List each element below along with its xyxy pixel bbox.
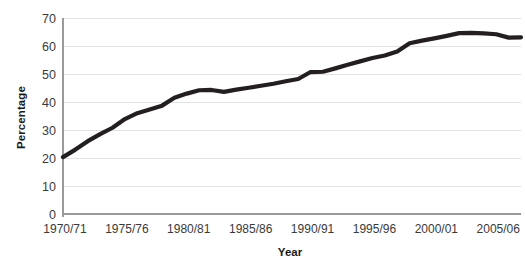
- x-tick-label: 1975/76: [105, 222, 149, 236]
- x-tick-label: 1985/86: [229, 222, 273, 236]
- y-tick-label: 40: [42, 96, 56, 110]
- series-line: [63, 33, 521, 157]
- y-tick-label: 10: [42, 180, 56, 194]
- y-tick-label: 70: [42, 12, 56, 26]
- y-tick-label: 20: [42, 152, 56, 166]
- y-tick-label: 60: [42, 40, 56, 54]
- x-tick-label: 2005/06: [477, 222, 521, 236]
- x-tick-label: 1990/91: [291, 222, 335, 236]
- y-tick-label: 50: [42, 68, 56, 82]
- x-tick-label: 2000/01: [415, 222, 459, 236]
- y-tick-labels: 706050403020100: [42, 12, 56, 222]
- y-tick-label: 0: [49, 208, 56, 222]
- x-tick-labels: 1970/711975/761980/811985/861990/911995/…: [43, 222, 520, 236]
- x-tick-label: 1980/81: [167, 222, 211, 236]
- x-tick-label: 1970/71: [43, 222, 87, 236]
- line-chart: Percentage Year 706050403020100 1970/711…: [0, 0, 525, 271]
- x-tick-label: 1995/96: [353, 222, 397, 236]
- data-series: [63, 33, 521, 157]
- y-tick-label: 30: [42, 124, 56, 138]
- plot-area: 706050403020100 1970/711975/761980/81198…: [0, 0, 525, 271]
